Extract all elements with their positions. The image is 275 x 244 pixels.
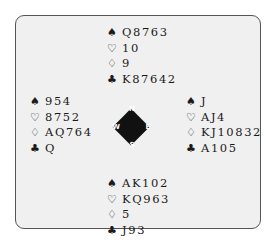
club-icon: ♣ — [107, 223, 122, 239]
spade-icon: ♠ — [107, 25, 122, 41]
south-spades: AK102 — [122, 176, 169, 190]
heart-icon: ♡ — [186, 110, 201, 126]
west-hand: ♠954 ♡8752 ♢AQ764 ♣Q — [30, 94, 93, 156]
south-hand: ♠AK102 ♡KQ963 ♢5 ♣J93 — [107, 176, 170, 238]
west-hearts: 8752 — [45, 110, 81, 124]
north-diamonds: 9 — [122, 56, 131, 70]
west-diamonds: AQ764 — [45, 125, 93, 139]
spade-icon: ♠ — [30, 94, 45, 110]
club-icon: ♣ — [107, 72, 122, 88]
north-spades: Q8763 — [122, 25, 169, 39]
heart-icon: ♡ — [107, 41, 122, 57]
east-hand: ♠J ♡AJ4 ♢KJ10832 ♣A105 — [186, 94, 262, 156]
diamond-icon: ♢ — [107, 56, 122, 72]
east-clubs: A105 — [201, 141, 238, 155]
north-hand: ♠Q8763 ♡10 ♢9 ♣K87642 — [107, 25, 177, 87]
diamond-icon: ♢ — [186, 125, 201, 141]
west-clubs: Q — [45, 141, 56, 155]
diamond-icon: ♢ — [107, 207, 122, 223]
compass-west-label: W — [111, 123, 121, 131]
south-clubs: J93 — [122, 223, 146, 237]
compass-north-label: N — [127, 105, 137, 113]
spade-icon: ♠ — [186, 94, 201, 110]
heart-icon: ♡ — [107, 192, 122, 208]
west-spades: 954 — [45, 94, 72, 108]
spade-icon: ♠ — [107, 176, 122, 192]
east-hearts: AJ4 — [201, 110, 226, 124]
heart-icon: ♡ — [30, 110, 45, 126]
east-spades: J — [201, 94, 207, 108]
south-diamonds: 5 — [122, 207, 131, 221]
north-hearts: 10 — [122, 41, 140, 55]
compass-east-label: E — [143, 123, 153, 131]
compass-south-label: S — [127, 141, 137, 149]
club-icon: ♣ — [30, 141, 45, 157]
club-icon: ♣ — [186, 141, 201, 157]
north-clubs: K87642 — [122, 72, 177, 86]
diamond-icon: ♢ — [30, 125, 45, 141]
south-hearts: KQ963 — [122, 192, 170, 206]
east-diamonds: KJ10832 — [201, 125, 262, 139]
